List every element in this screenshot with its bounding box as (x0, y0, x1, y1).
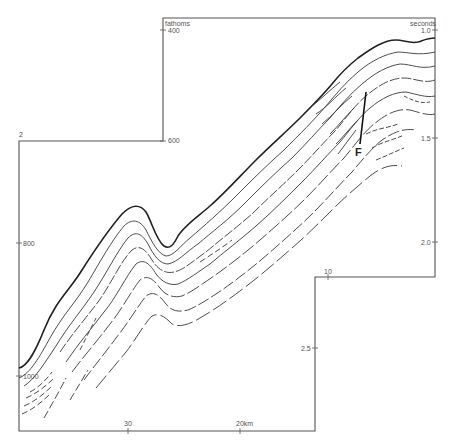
right-axis-tick-2-0: 2.0 (421, 239, 431, 246)
left-axis-unit-label: fathoms (165, 20, 190, 27)
bottom-axis-tick-10: 10 (324, 268, 332, 275)
right-axis-tick-1-5: 1.5 (421, 135, 431, 142)
fault-label: F (355, 146, 362, 158)
right-axis-unit-label: seconds (410, 20, 436, 27)
sub-bottom-reflectors (19, 52, 435, 418)
seabed-reflector (19, 38, 435, 368)
plot-frame (19, 18, 435, 431)
right-axis-tick-2-5: 2.5 (301, 345, 311, 352)
bottom-axis-tick-20km: 20km (236, 420, 253, 427)
axis-ticks (16, 30, 438, 434)
bottom-axis-tick-30: 30 (124, 420, 132, 427)
fault-line (360, 92, 366, 144)
left-axis-tick-1000: 1000 (23, 373, 39, 380)
corner-mark: 2 (19, 131, 23, 138)
left-axis-tick-600: 600 (168, 137, 180, 144)
left-axis-tick-400: 400 (168, 27, 180, 34)
right-axis-tick-1-0: 1.0 (421, 27, 431, 34)
seismic-profile-drawing (0, 0, 460, 446)
left-axis-tick-800: 800 (23, 240, 35, 247)
